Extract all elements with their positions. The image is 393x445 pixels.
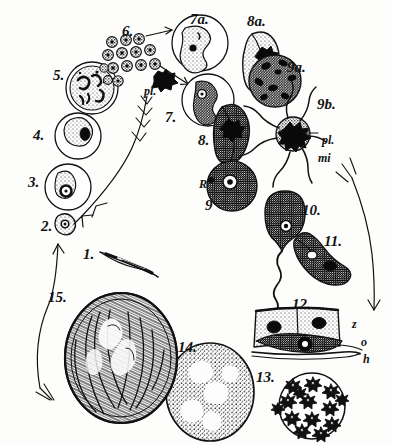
stage-label-15: 15. xyxy=(48,290,67,305)
stage-label-8: 8. xyxy=(198,133,209,148)
stage-label-8a: 8a. xyxy=(247,14,266,29)
stage-label-7: 7. xyxy=(165,110,176,125)
annotation-label-pl-9b: pl. xyxy=(322,134,334,146)
stage-12-stomach-wall xyxy=(252,308,362,360)
stage-label-9a: 9a. xyxy=(287,60,306,75)
annotation-label-R: R xyxy=(199,178,207,190)
stage-label-9: 9 xyxy=(205,198,213,213)
stage-label-12: 12. xyxy=(292,297,311,312)
stage-label-4: 4. xyxy=(33,128,44,143)
R-marker-dot xyxy=(208,177,214,183)
arrow-oocyst-to-sporozoite xyxy=(36,244,64,400)
stage-6-merozoites xyxy=(100,34,178,92)
arrow-right-cycle xyxy=(336,158,380,310)
stage-label-11: 11. xyxy=(324,234,342,249)
arrow-6-to-7a xyxy=(146,27,172,36)
stage-1-sporozoite xyxy=(100,252,158,277)
stage-label-6: 6. xyxy=(122,24,133,39)
stage-11-ookinete xyxy=(294,233,351,285)
stage-label-14: 14. xyxy=(178,340,197,355)
stage-label-9b: 9b. xyxy=(317,97,336,112)
stage-13-oocyst-sporoblasts xyxy=(271,373,349,442)
stage-4-trophozoite xyxy=(55,113,101,159)
stage-label-1: 1. xyxy=(83,247,94,262)
annotation-label-mi: mi xyxy=(318,152,331,164)
stage-label-7a: 7a. xyxy=(190,12,209,27)
stage-label-5: 5. xyxy=(53,68,64,83)
annotation-label-o: o xyxy=(361,336,367,348)
stage-label-3: 3. xyxy=(28,175,39,190)
annotation-label-z: z xyxy=(352,318,357,330)
annotation-label-h: h xyxy=(363,353,370,365)
stage-15-mature-oocyst xyxy=(65,293,177,423)
stage-3-ring-form xyxy=(45,164,91,210)
stage-label-13: 13. xyxy=(256,370,275,385)
stage-14-oocyst xyxy=(166,343,254,441)
annotation-label-pl-6: pl. xyxy=(144,85,156,97)
stage-9-macrogamete xyxy=(207,161,257,211)
stage-label-2: 2. xyxy=(41,219,52,234)
stage-2-young-parasite xyxy=(55,214,76,235)
malaria-life-cycle-plate: 1.2.3.4.5.6.7.7a.8.8a.99a.9b.10.11.12.13… xyxy=(0,0,393,445)
stage-label-10: 10. xyxy=(302,203,321,218)
